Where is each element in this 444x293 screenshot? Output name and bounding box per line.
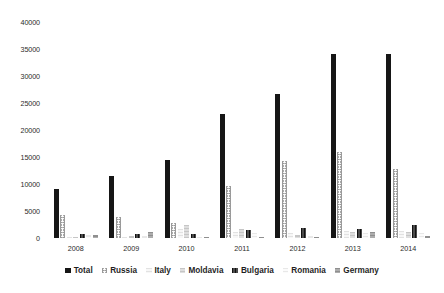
- bar-chart: 4000035000300002500020000150001000050000…: [0, 0, 444, 293]
- bar-group-2008: [48, 22, 103, 238]
- bar-group-2014: [381, 22, 436, 238]
- legend-swatch-icon: [65, 268, 71, 274]
- bar-moldavia-2010: [184, 225, 189, 239]
- legend-item-label: Moldavia: [188, 266, 223, 275]
- bar-russia-2010: [171, 223, 176, 238]
- legend-item-moldavia[interactable]: Moldavia: [180, 266, 224, 275]
- bar-germany-2014: [425, 236, 430, 238]
- legend-swatch-icon: [283, 268, 289, 274]
- legend-item-label: Russia: [110, 266, 137, 275]
- y-axis-tick-label: 10000: [0, 180, 44, 189]
- bar-total-2012: [275, 94, 280, 238]
- bar-total-2010: [165, 160, 170, 238]
- bar-russia-2009: [116, 217, 121, 238]
- y-axis-tick-label: 5000: [0, 207, 44, 216]
- x-axis-tick-label: 2012: [289, 244, 305, 253]
- y-axis-tick-label: 0: [0, 234, 44, 243]
- x-axis-tick-label: 2011: [234, 244, 249, 253]
- x-axis-tick-label: 2009: [123, 244, 139, 253]
- bar-moldavia-2009: [129, 236, 134, 238]
- bar-bulgaria-2011: [246, 230, 251, 238]
- bar-group-2012: [270, 22, 325, 238]
- bar-total-2014: [386, 54, 391, 238]
- y-axis-tick-label: 35000: [0, 45, 44, 54]
- bar-group-2011: [214, 22, 269, 238]
- plot-area: [48, 22, 436, 238]
- x-axis-tick-label: 2013: [345, 244, 361, 253]
- legend-swatch-icon: [232, 268, 238, 274]
- legend-item-russia[interactable]: Russia: [102, 266, 137, 275]
- chart-legend: TotalRussiaItalyMoldaviaBulgariaRomaniaG…: [0, 266, 444, 275]
- legend-item-label: Germany: [343, 266, 379, 275]
- legend-item-bulgaria[interactable]: Bulgaria: [232, 266, 273, 275]
- bar-germany-2012: [314, 237, 319, 238]
- bar-romania-2011: [252, 233, 257, 238]
- legend-item-label: Total: [74, 266, 93, 275]
- bar-bulgaria-2013: [357, 229, 362, 238]
- legend-swatch-icon: [102, 268, 108, 274]
- y-axis-tick-label: 25000: [0, 99, 44, 108]
- bar-group-2009: [103, 22, 158, 238]
- bar-bulgaria-2009: [135, 234, 140, 238]
- bar-romania-2014: [419, 233, 424, 238]
- bar-germany-2008: [93, 235, 98, 238]
- bar-germany-2009: [148, 232, 153, 238]
- bar-italy-2011: [233, 232, 238, 238]
- bar-russia-2008: [60, 215, 65, 238]
- bar-group-2010: [159, 22, 214, 238]
- bar-russia-2012: [282, 161, 287, 238]
- bar-romania-2012: [308, 236, 313, 238]
- legend-item-germany[interactable]: Germany: [335, 266, 379, 275]
- bar-bulgaria-2010: [191, 234, 196, 238]
- bar-bulgaria-2008: [80, 234, 85, 238]
- bar-total-2009: [109, 176, 114, 238]
- bar-bulgaria-2014: [412, 225, 417, 238]
- y-axis-tick-label: 15000: [0, 153, 44, 162]
- bar-moldavia-2014: [406, 232, 411, 238]
- bar-italy-2014: [399, 231, 404, 238]
- legend-swatch-icon: [180, 268, 186, 274]
- y-axis-tick-label: 20000: [0, 126, 44, 135]
- bar-total-2011: [220, 114, 225, 238]
- bar-russia-2013: [337, 152, 342, 238]
- legend-item-label: Romania: [291, 266, 326, 275]
- bar-italy-2009: [122, 237, 127, 238]
- bar-moldavia-2012: [295, 235, 300, 238]
- bar-moldavia-2008: [73, 237, 78, 238]
- x-axis-tick-label: 2008: [68, 244, 84, 253]
- bar-italy-2008: [67, 237, 72, 238]
- legend-swatch-icon: [146, 268, 152, 274]
- bar-italy-2012: [288, 233, 293, 238]
- bar-russia-2014: [393, 169, 398, 238]
- y-axis-tick-label: 40000: [0, 18, 44, 27]
- bar-romania-2008: [86, 235, 91, 238]
- legend-item-label: Bulgaria: [241, 266, 274, 275]
- bar-romania-2010: [197, 237, 202, 238]
- legend-item-label: Italy: [155, 266, 171, 275]
- bar-italy-2013: [344, 231, 349, 238]
- legend-item-italy[interactable]: Italy: [146, 266, 171, 275]
- bar-romania-2013: [363, 233, 368, 238]
- legend-item-romania[interactable]: Romania: [283, 266, 326, 275]
- bar-germany-2010: [204, 237, 209, 238]
- x-axis-tick-label: 2014: [400, 244, 416, 253]
- bar-romania-2009: [142, 236, 147, 238]
- bar-bulgaria-2012: [301, 228, 306, 238]
- x-axis-tick-label: 2010: [179, 244, 195, 253]
- bar-group-2013: [325, 22, 380, 238]
- bar-moldavia-2013: [350, 232, 355, 238]
- legend-swatch-icon: [335, 268, 341, 274]
- bar-germany-2013: [370, 232, 375, 238]
- bar-total-2013: [331, 54, 336, 238]
- y-axis-tick-label: 30000: [0, 72, 44, 81]
- bar-total-2008: [54, 189, 59, 238]
- bar-germany-2011: [259, 237, 264, 238]
- bar-italy-2010: [178, 229, 183, 238]
- legend-item-total[interactable]: Total: [65, 266, 92, 275]
- bar-russia-2011: [226, 186, 231, 238]
- bar-moldavia-2011: [239, 229, 244, 238]
